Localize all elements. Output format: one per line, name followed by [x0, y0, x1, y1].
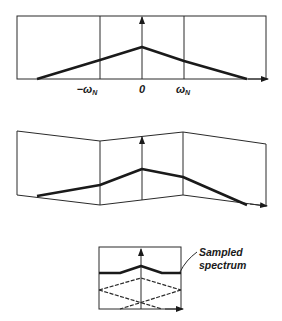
annotation-line1: Sampled	[199, 246, 243, 258]
annotation-leader-line	[180, 252, 197, 272]
frame	[99, 247, 181, 309]
aliasing-diagram: −ωN 0 ωN Sampled spectrum	[0, 0, 282, 321]
folded-spectrum-panel	[17, 131, 267, 206]
right-alias-component	[120, 290, 181, 309]
continuous-spectrum-panel: −ωN 0 ωN	[17, 16, 268, 96]
sampled-spectrum-curve	[99, 266, 181, 273]
x-axis-arrow	[250, 204, 267, 206]
annotation-line2: spectrum	[199, 259, 246, 271]
pos-nyquist-label: ωN	[176, 83, 191, 96]
center-alias-component	[99, 278, 181, 290]
zero-label: 0	[139, 83, 146, 95]
sampled-spectrum-panel: Sampled spectrum	[99, 246, 246, 309]
neg-nyquist-label: −ωN	[77, 83, 99, 96]
